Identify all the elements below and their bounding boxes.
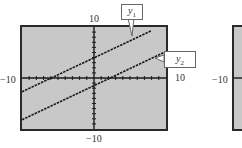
y1-callout: y1 xyxy=(121,4,143,20)
xmin-label-screen2: −10 xyxy=(212,75,228,85)
second-calculator-screen xyxy=(232,25,242,131)
calculator-screen xyxy=(20,25,168,131)
graph-plot xyxy=(22,27,166,129)
xmin-label: −10 xyxy=(0,75,16,85)
ymin-label: −10 xyxy=(86,134,102,144)
ymax-label: 10 xyxy=(89,14,99,24)
y2-subscript: 2 xyxy=(180,59,184,67)
y1-subscript: 1 xyxy=(132,11,136,19)
xmax-label: 10 xyxy=(175,73,185,83)
y2-callout: y2 xyxy=(164,51,196,68)
line-y1 xyxy=(22,31,152,92)
